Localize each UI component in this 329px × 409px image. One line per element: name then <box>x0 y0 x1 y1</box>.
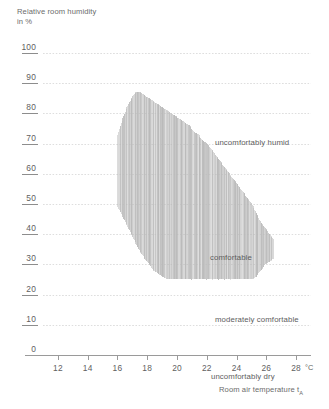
y-axis-title: Relative room humidity in % <box>17 7 96 28</box>
x-tick <box>117 355 118 360</box>
y-tick-label: 10 <box>14 314 36 324</box>
hatch-line <box>273 239 274 259</box>
y-tick-rule <box>22 264 38 265</box>
zone-label-uncomfortably-dry: uncomfortably dry <box>211 372 275 381</box>
x-tick-label: 26 <box>254 363 278 373</box>
zone-label-uncomfortably-humid: uncomfortably humid <box>215 138 289 147</box>
y-tick-label: 30 <box>14 253 36 263</box>
y-tick-label: 50 <box>14 193 36 203</box>
x-tick-label: 20 <box>165 363 189 373</box>
y-tick-label: 100 <box>14 42 36 52</box>
degree-unit-label: °C <box>305 363 313 372</box>
x-tick <box>266 355 267 360</box>
plot-area: uncomfortably humid comfortable moderate… <box>43 53 311 355</box>
y-tick-rule <box>22 113 38 114</box>
x-tick <box>296 355 297 360</box>
y-tick-label: 0 <box>14 344 36 354</box>
y-tick-rule <box>22 204 38 205</box>
x-tick-label: 14 <box>76 363 100 373</box>
y-tick-label: 80 <box>14 102 36 112</box>
y-tick-label: 70 <box>14 133 36 143</box>
x-tick <box>58 355 59 360</box>
zone-label-moderately-comfortable: moderately comfortable <box>215 315 299 324</box>
x-axis-line <box>25 355 311 356</box>
y-tick-label: 60 <box>14 163 36 173</box>
comfort-zone-hatching <box>43 53 311 355</box>
y-tick-rule <box>22 53 38 54</box>
y-tick-rule <box>22 83 38 84</box>
x-tick <box>237 355 238 360</box>
x-tick-label: 22 <box>195 363 219 373</box>
y-tick-rule <box>22 144 38 145</box>
y-tick-rule <box>22 234 38 235</box>
x-tick <box>177 355 178 360</box>
zone-label-comfortable: comfortable <box>210 253 252 262</box>
x-axis-title: Room air temperature tA <box>219 385 303 398</box>
y-tick-label: 20 <box>14 284 36 294</box>
y-tick-label: 90 <box>14 72 36 82</box>
y-tick-rule <box>22 174 38 175</box>
x-axis-title-text: Room air temperature t <box>219 385 299 394</box>
x-tick <box>207 355 208 360</box>
x-tick-label: 18 <box>135 363 159 373</box>
chart-root: Relative room humidity in % uncomfortabl… <box>0 0 329 409</box>
x-tick-label: 16 <box>105 363 129 373</box>
y-tick-rule <box>22 325 38 326</box>
x-axis-title-subscript: A <box>299 390 303 396</box>
x-tick <box>147 355 148 360</box>
x-tick-label: 24 <box>225 363 249 373</box>
x-tick-label: 12 <box>46 363 70 373</box>
y-tick-label: 40 <box>14 223 36 233</box>
y-tick-rule <box>22 295 38 296</box>
x-tick <box>88 355 89 360</box>
